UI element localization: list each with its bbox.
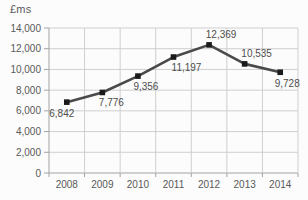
- y-tick-label: 0: [35, 168, 41, 179]
- data-label: 10,535: [241, 48, 272, 59]
- x-tick-label: 2011: [163, 179, 185, 190]
- y-tick-label: 6,000: [16, 105, 41, 116]
- data-point-marker: [100, 90, 106, 96]
- y-tick-label: 12,000: [10, 43, 41, 54]
- data-point-marker: [135, 73, 141, 79]
- y-tick-label: 4,000: [16, 126, 41, 137]
- y-tick-label: 8,000: [16, 85, 41, 96]
- x-tick-label: 2009: [91, 179, 114, 190]
- data-point-marker: [206, 42, 212, 48]
- x-tick-label: 2013: [234, 179, 257, 190]
- y-tick-label: 10,000: [10, 64, 41, 75]
- y-tick-label: 2,000: [16, 147, 41, 158]
- x-tick-label: 2010: [127, 179, 150, 190]
- x-tick-label: 2012: [198, 179, 221, 190]
- data-label: 11,197: [172, 62, 202, 73]
- data-label: 6,842: [49, 108, 74, 119]
- data-label: 9,728: [275, 78, 300, 89]
- plot-svg: 02,0004,0006,0008,00010,00012,00014,0002…: [0, 0, 308, 200]
- data-point-marker: [277, 69, 283, 75]
- x-tick-label: 2014: [269, 179, 292, 190]
- data-point-marker: [64, 99, 70, 105]
- data-label: 7,776: [99, 97, 124, 108]
- data-label: 9,356: [133, 81, 158, 92]
- y-tick-label: 14,000: [10, 23, 41, 34]
- data-point-marker: [242, 61, 248, 67]
- data-label: 12,369: [206, 29, 237, 40]
- data-point-marker: [171, 54, 177, 60]
- x-tick-label: 2008: [56, 179, 79, 190]
- line-chart: £ms 02,0004,0006,0008,00010,00012,00014,…: [0, 0, 308, 200]
